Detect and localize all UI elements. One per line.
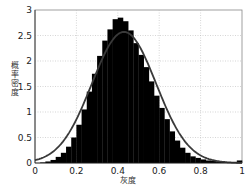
x-tick-label: 1 (239, 166, 245, 176)
y-tick-label: 0.5 (18, 133, 32, 143)
x-axis-label: 灰度 (120, 175, 136, 185)
histogram-bar (113, 19, 118, 163)
x-tick-label: 0.4 (111, 166, 126, 176)
histogram-bar (149, 81, 154, 163)
histogram-bar (154, 96, 159, 163)
histogram-bar (56, 157, 61, 163)
histogram-bar (61, 153, 66, 163)
y-tick-label: 2 (26, 56, 32, 66)
histogram-chart: 00.20.40.60.81 00.511.522.53 灰度 概率密度 (0, 0, 248, 189)
x-tick-label: 0.2 (69, 166, 83, 176)
y-tick-label: 0 (26, 158, 32, 168)
histogram-bar (87, 92, 92, 163)
histogram-bar (66, 147, 71, 163)
histogram-bar (92, 74, 97, 163)
histogram-bar (71, 138, 76, 164)
y-axis-label: 概率密度 (11, 60, 19, 97)
histogram-bar (175, 141, 180, 163)
histogram-bar (76, 125, 81, 163)
histogram-bar (144, 67, 149, 163)
x-tick-label: 0.8 (193, 166, 208, 176)
y-tick-label: 2.5 (18, 31, 32, 41)
histogram-bar (97, 56, 102, 163)
x-tick-label: 0.6 (152, 166, 167, 176)
histogram-bar (185, 153, 190, 163)
y-tick-labels: 00.511.522.53 (18, 5, 33, 168)
histogram-bar (180, 148, 185, 163)
histogram-bar (201, 159, 206, 163)
histogram-bar (107, 29, 112, 163)
y-tick-label: 1.5 (18, 82, 32, 92)
x-tick-label: 0 (32, 166, 38, 176)
histogram-bar (139, 55, 144, 163)
histogram-bar (128, 30, 133, 163)
histogram-bar (195, 158, 200, 163)
histogram-bar (82, 109, 87, 163)
histogram-bar (164, 119, 169, 163)
x-tick-labels: 00.20.40.60.81 (32, 166, 245, 176)
histogram-bar (51, 160, 56, 163)
y-tick-label: 3 (26, 5, 32, 15)
histogram-bar (190, 156, 195, 163)
histogram-bar (123, 21, 128, 163)
y-tick-label: 1 (26, 107, 32, 117)
histogram-bar (170, 131, 175, 163)
histogram-bar (133, 43, 138, 163)
histogram-bar (118, 18, 123, 163)
histogram-bar (159, 108, 164, 163)
